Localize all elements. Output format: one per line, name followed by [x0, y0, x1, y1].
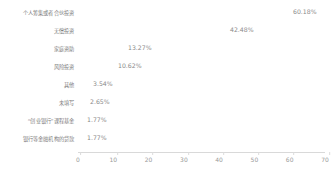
- tick-mark: [294, 152, 295, 155]
- category-label: 风险投资: [0, 63, 74, 71]
- tick-mark: [152, 152, 153, 155]
- bar-row[interactable]: 家庭资助 13.27%: [0, 40, 332, 58]
- value-label: 13.27%: [128, 43, 152, 53]
- bar-row[interactable]: “创业银行”课程基金 1.77%: [0, 112, 332, 130]
- bar-row[interactable]: 其他 3.54%: [0, 76, 332, 94]
- tick-mark: [258, 152, 259, 155]
- category-label: 银行等金融机构的贷款: [0, 135, 74, 143]
- x-axis-ticks: 0 10 20 30 40 50 60 70: [0, 155, 332, 173]
- tick-mark: [188, 152, 189, 155]
- value-label: 42.48%: [230, 25, 254, 35]
- x-tick-label: 40: [215, 155, 223, 165]
- value-label: 2.65%: [90, 97, 110, 107]
- plot-area: 个人筹集或者合伙投资 60.18% 无偿投资 42.48% 家庭资助 13.27…: [0, 0, 332, 180]
- value-label: 3.54%: [93, 79, 113, 89]
- bar-row[interactable]: 风险投资 10.62%: [0, 58, 332, 76]
- x-tick-label: 20: [145, 155, 153, 165]
- category-label: “创业银行”课程基金: [0, 117, 74, 125]
- x-axis-line: [78, 152, 325, 153]
- value-label: 1.77%: [87, 133, 107, 143]
- bar-row[interactable]: 银行等金融机构的贷款 1.77%: [0, 130, 332, 148]
- category-label: 其他: [0, 81, 74, 89]
- horizontal-bar-chart: 个人筹集或者合伙投资 60.18% 无偿投资 42.48% 家庭资助 13.27…: [0, 0, 332, 180]
- value-label: 60.18%: [293, 7, 317, 17]
- tick-mark: [80, 152, 81, 155]
- value-label: 10.62%: [118, 61, 142, 71]
- bar-row[interactable]: 无偿投资 42.48%: [0, 22, 332, 40]
- x-tick-label: 0: [76, 155, 80, 165]
- bar-row[interactable]: 个人筹集或者合伙投资 60.18%: [0, 4, 332, 22]
- x-tick-label: 30: [180, 155, 188, 165]
- tick-mark: [329, 152, 330, 155]
- category-label: 未填写: [0, 99, 74, 107]
- value-label: 1.77%: [87, 115, 107, 125]
- x-tick-label: 50: [251, 155, 259, 165]
- category-label: 家庭资助: [0, 45, 74, 53]
- tick-mark: [223, 152, 224, 155]
- x-tick-label: 10: [109, 155, 117, 165]
- category-label: 个人筹集或者合伙投资: [0, 9, 74, 17]
- tick-mark: [117, 152, 118, 155]
- x-tick-label: 60: [286, 155, 294, 165]
- bar-row[interactable]: 未填写 2.65%: [0, 94, 332, 112]
- category-label: 无偿投资: [0, 27, 74, 35]
- x-tick-label: 70: [321, 155, 329, 165]
